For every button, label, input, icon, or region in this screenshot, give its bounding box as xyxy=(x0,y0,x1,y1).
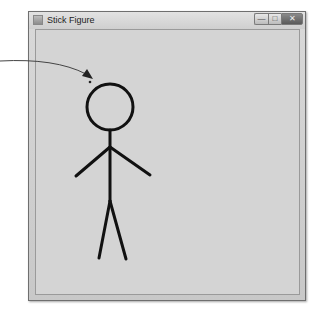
pointer-dot xyxy=(89,81,92,84)
callout-arrow-line xyxy=(0,61,86,74)
stick-figure xyxy=(76,84,150,259)
stick-figure-right-leg xyxy=(110,201,126,259)
stick-figure-left-arm xyxy=(76,147,110,176)
stick-figure-head xyxy=(87,84,133,130)
callout-arrow xyxy=(0,61,93,84)
callout-arrow-head-icon xyxy=(82,69,93,79)
drawing-layer xyxy=(0,0,319,316)
stick-figure-left-leg xyxy=(99,201,110,258)
stick-figure-right-arm xyxy=(110,147,150,175)
